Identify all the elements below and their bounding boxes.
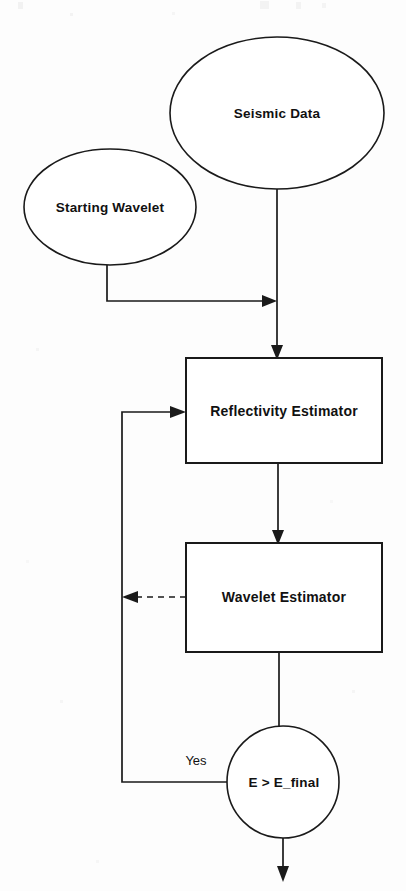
node-wavelet-estimator-label: Wavelet Estimator <box>222 589 347 605</box>
edge-reflectivity-to-wavelet-estimator <box>272 463 284 545</box>
edge-seismic-to-reflectivity <box>271 189 283 360</box>
node-convergence-test[interactable]: E > E_final <box>227 726 339 838</box>
node-starting-wavelet-label: Starting Wavelet <box>56 200 165 215</box>
node-seismic-data-label: Seismic Data <box>234 106 321 121</box>
edge-wavelet-estimator-feedback <box>122 591 186 603</box>
node-reflectivity-estimator[interactable]: Reflectivity Estimator <box>186 358 382 463</box>
flowchart-canvas: Seismic Data Starting Wavelet Reflectivi… <box>0 0 406 891</box>
node-convergence-test-label: E > E_final <box>249 775 320 790</box>
edge-label-yes: Yes <box>185 753 207 768</box>
node-seismic-data[interactable]: Seismic Data <box>170 37 384 189</box>
edge-test-exit <box>277 838 289 882</box>
node-wavelet-estimator[interactable]: Wavelet Estimator <box>186 543 382 652</box>
edge-starting-wavelet-to-trunk <box>107 265 277 307</box>
node-reflectivity-estimator-label: Reflectivity Estimator <box>210 403 358 419</box>
flowchart-svg: Seismic Data Starting Wavelet Reflectivi… <box>0 0 406 891</box>
node-starting-wavelet[interactable]: Starting Wavelet <box>24 149 196 265</box>
